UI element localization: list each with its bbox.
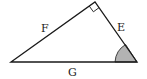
right-angle-marker [89,6,99,12]
side-label-e: E [117,21,125,34]
triangle-diagram: F E G [0,0,147,79]
side-label-f: F [41,22,49,35]
side-label-g: G [68,66,77,79]
